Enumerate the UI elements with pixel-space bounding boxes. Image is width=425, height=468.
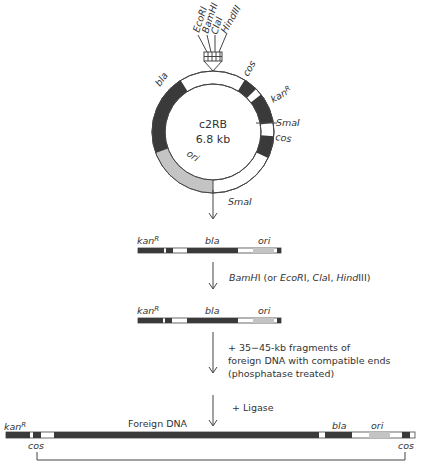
kan-label: kanR	[269, 84, 294, 105]
plasmid-name: c2RB	[199, 118, 227, 131]
svg-text:ori: ori	[371, 420, 384, 431]
cosmid-cloning-diagram: EcoRI BamHI ClaI HindIII	[0, 0, 425, 468]
smai-label: SmaI	[276, 117, 300, 128]
svg-text:cos: cos	[398, 440, 414, 451]
svg-text:kanR: kanR	[4, 421, 26, 432]
linear-construct-1: kanR bla ori	[137, 235, 281, 253]
step4-ligase: + Ligase	[232, 402, 274, 413]
svg-text:kanR: kanR	[137, 305, 159, 316]
packaging-bracket	[37, 452, 405, 460]
step3-line3: (phosphatase treated)	[228, 368, 334, 379]
svg-text:cos: cos	[28, 440, 44, 451]
polylinker-labels: EcoRI BamHI ClaI HindIII	[190, 1, 243, 36]
final-construct: kanR Foreign DNA bla ori cos cos	[4, 418, 415, 460]
svg-text:bla: bla	[205, 235, 220, 246]
step3-line2: foreign DNA with compatible ends	[228, 355, 390, 366]
foreign-dna-label: Foreign DNA	[128, 418, 188, 429]
svg-text:ori: ori	[258, 305, 271, 316]
step3-line1: + 35−45-kb fragments of	[228, 342, 351, 353]
cos-top-label: cos	[240, 59, 258, 78]
svg-text:ori: ori	[258, 235, 271, 246]
svg-text:bla: bla	[332, 420, 347, 431]
linear-construct-2: kanR bla ori	[137, 305, 281, 323]
svg-text:bla: bla	[205, 305, 220, 316]
plasmid-size: 6.8 kb	[196, 133, 230, 146]
plasmid-ring	[142, 71, 277, 193]
svg-text:kanR: kanR	[137, 235, 159, 246]
step2-enzyme: BamHI (or EcoRI, ClaI, HindIII)	[229, 272, 370, 283]
cos-right-label: cos	[275, 131, 292, 144]
step1-enzyme: SmaI	[228, 196, 252, 207]
bla-label: bla	[153, 70, 170, 88]
polylinker-lines	[198, 33, 227, 71]
